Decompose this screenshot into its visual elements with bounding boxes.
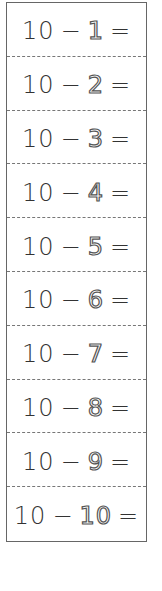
minuend: 10 (22, 339, 55, 369)
equation-row: 10−2= (7, 57, 146, 111)
equals-sign: = (110, 16, 131, 46)
equals-sign: = (110, 178, 131, 208)
subtrahend: 2 (88, 70, 104, 100)
equals-sign: = (110, 339, 131, 369)
minus-sign: − (52, 501, 73, 531)
subtrahend: 6 (88, 285, 104, 315)
minus-sign: − (61, 447, 82, 477)
minuend: 10 (22, 178, 55, 208)
equation-row: 10−7= (7, 326, 146, 380)
subtrahend: 1 (88, 16, 104, 46)
subtrahend: 3 (88, 124, 104, 154)
minuend: 10 (22, 232, 55, 262)
minus-sign: − (61, 178, 82, 208)
equals-sign: = (110, 124, 131, 154)
equation-row: 10−3= (7, 111, 146, 165)
equals-sign: = (110, 447, 131, 477)
subtrahend: 5 (88, 232, 104, 262)
subtraction-card-strip: 10−1= 10−2= 10−3= 10−4= 10−5= 10−6= 10−7… (6, 2, 147, 542)
minuend: 10 (14, 501, 47, 531)
equation-row: 10−5= (7, 218, 146, 272)
equals-sign: = (110, 393, 131, 423)
equation-row: 10−1= (7, 3, 146, 57)
minuend: 10 (22, 393, 55, 423)
equation-row: 10−4= (7, 164, 146, 218)
equation-row: 10−10= (7, 487, 146, 541)
equals-sign: = (118, 501, 139, 531)
subtrahend: 10 (80, 501, 113, 531)
minus-sign: − (61, 285, 82, 315)
minus-sign: − (61, 16, 82, 46)
equals-sign: = (110, 70, 131, 100)
minuend: 10 (22, 124, 55, 154)
minus-sign: − (61, 70, 82, 100)
equation-row: 10−9= (7, 433, 146, 487)
subtrahend: 7 (88, 339, 104, 369)
minuend: 10 (22, 285, 55, 315)
minus-sign: − (61, 232, 82, 262)
equation-row: 10−8= (7, 380, 146, 434)
subtrahend: 8 (88, 393, 104, 423)
equals-sign: = (110, 285, 131, 315)
minuend: 10 (22, 447, 55, 477)
minus-sign: − (61, 339, 82, 369)
equals-sign: = (110, 232, 131, 262)
minus-sign: − (61, 393, 82, 423)
equation-row: 10−6= (7, 272, 146, 326)
minus-sign: − (61, 124, 82, 154)
subtrahend: 4 (88, 178, 104, 208)
subtrahend: 9 (88, 447, 104, 477)
minuend: 10 (22, 16, 55, 46)
minuend: 10 (22, 70, 55, 100)
